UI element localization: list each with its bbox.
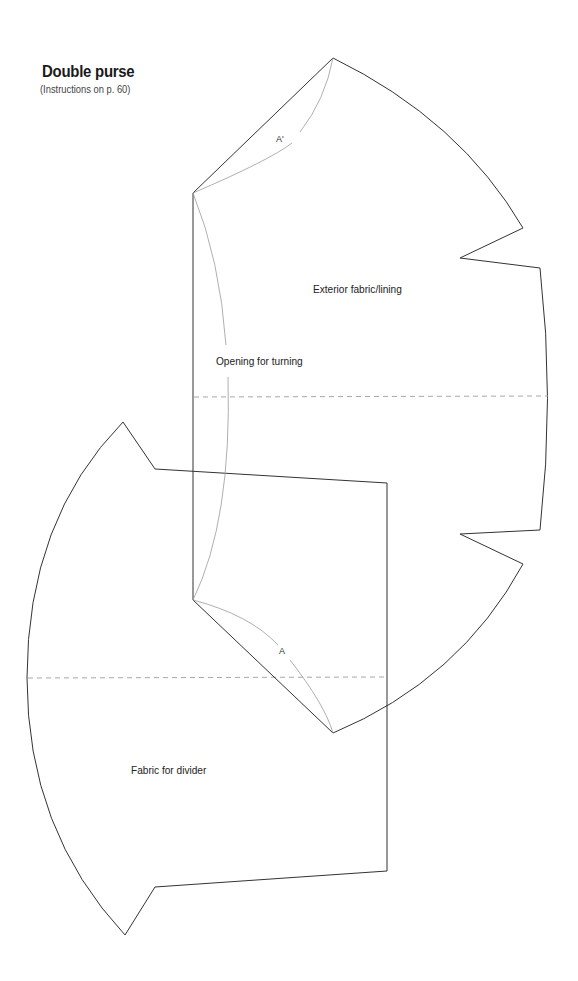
divider-piece-label: Fabric for divider — [131, 764, 206, 776]
mark-a-prime: A' — [276, 134, 284, 144]
opening-curve-upper — [193, 193, 226, 345]
divider-fold-line — [28, 677, 387, 678]
opening-curve-lower — [193, 377, 228, 600]
divider-outline — [27, 422, 387, 935]
divider-piece — [27, 422, 387, 935]
exterior-piece — [193, 58, 548, 733]
guide-curve-a-upper — [193, 600, 278, 645]
opening-label: Opening for turning — [216, 355, 303, 367]
exterior-fold-line — [194, 396, 548, 397]
mark-a: A — [279, 646, 285, 656]
exterior-piece-label: Exterior fabric/lining — [313, 283, 402, 295]
guide-curve-a-prime-upper — [300, 58, 333, 132]
exterior-outline — [193, 58, 548, 733]
guide-curve-a-prime — [193, 143, 292, 193]
pattern-diagram — [0, 0, 578, 981]
guide-curve-a-lower — [290, 660, 333, 733]
